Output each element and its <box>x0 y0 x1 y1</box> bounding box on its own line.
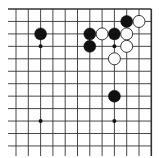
white-stone <box>108 53 120 65</box>
white-stone <box>96 28 108 40</box>
black-stone <box>121 15 133 27</box>
go-board <box>0 0 159 158</box>
white-stone <box>133 15 145 27</box>
black-stone <box>35 28 47 40</box>
black-stone <box>108 28 120 40</box>
star-point <box>39 44 43 48</box>
white-stone <box>121 40 133 52</box>
star-point <box>112 119 116 123</box>
star-point <box>39 119 43 123</box>
black-stone <box>84 40 96 52</box>
black-stone <box>84 28 96 40</box>
black-stone <box>108 90 120 102</box>
white-stone <box>121 28 133 40</box>
star-point <box>112 44 116 48</box>
